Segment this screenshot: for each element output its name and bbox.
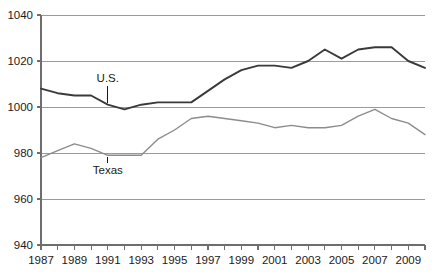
x-tick-label-2003: 2003 — [295, 254, 321, 266]
x-tick-label-1989: 1989 — [62, 254, 88, 266]
series-lines — [41, 47, 425, 157]
line-chart: 104010201000980960940 198719891991199319… — [0, 0, 436, 280]
x-tick-label-1993: 1993 — [128, 254, 154, 266]
x-tick-label-2007: 2007 — [362, 254, 388, 266]
annotation-label-u-s: U.S. — [97, 72, 119, 84]
y-tick-label-1020: 1020 — [7, 55, 33, 67]
gridlines — [41, 15, 425, 245]
x-tick-label-2001: 2001 — [262, 254, 288, 266]
y-tick-label-940: 940 — [14, 239, 33, 251]
y-tick-label-960: 960 — [14, 193, 33, 205]
y-tick-label-980: 980 — [14, 147, 33, 159]
chart-container: 104010201000980960940 198719891991199319… — [0, 0, 436, 280]
annotation-label-texas: Texas — [93, 164, 123, 176]
x-tick-label-1995: 1995 — [162, 254, 188, 266]
y-tick-label-1040: 1040 — [7, 9, 33, 21]
x-tick-labels: 1987198919911993199519971999200120032005… — [28, 254, 421, 266]
y-axis — [37, 15, 41, 245]
series-line-texas — [41, 109, 425, 157]
x-tick-label-2009: 2009 — [396, 254, 422, 266]
x-tick-label-1991: 1991 — [95, 254, 121, 266]
y-tick-label-1000: 1000 — [7, 101, 33, 113]
x-tick-label-2005: 2005 — [329, 254, 355, 266]
x-tick-label-1997: 1997 — [195, 254, 221, 266]
x-tick-label-1987: 1987 — [28, 254, 54, 266]
x-tick-label-1999: 1999 — [229, 254, 255, 266]
x-tick-marks — [41, 245, 425, 250]
y-tick-labels: 104010201000980960940 — [7, 9, 33, 251]
series-annotations: U.S.Texas — [93, 72, 123, 176]
